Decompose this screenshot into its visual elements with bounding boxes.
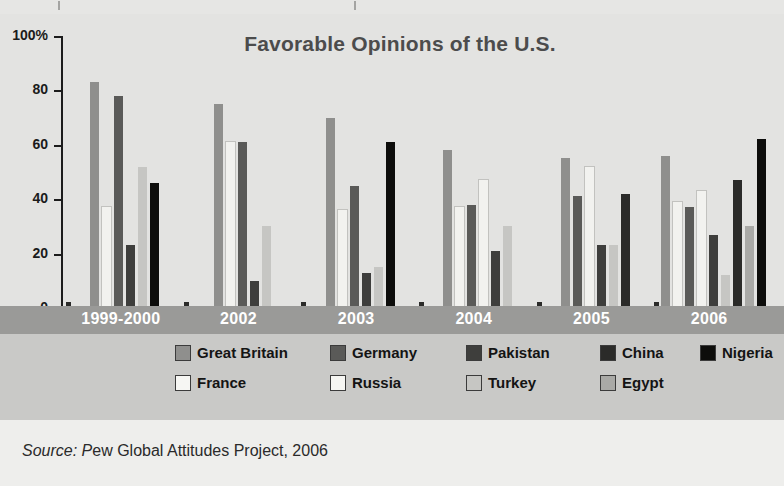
bar bbox=[126, 245, 135, 308]
legend-item-nigeria[interactable]: Nigeria bbox=[700, 344, 773, 361]
bar bbox=[661, 156, 670, 308]
bar bbox=[733, 180, 742, 308]
bar bbox=[374, 267, 383, 308]
bar bbox=[238, 142, 247, 308]
bar bbox=[386, 142, 395, 308]
legend-swatch-icon bbox=[600, 375, 616, 391]
x-axis-category-2004: 2004 bbox=[415, 310, 533, 328]
bar bbox=[362, 273, 371, 308]
legend-label: Nigeria bbox=[722, 344, 773, 361]
legend-swatch-icon bbox=[700, 345, 716, 361]
x-axis-category-2002: 2002 bbox=[180, 310, 298, 328]
bar bbox=[697, 191, 706, 308]
legend-item-pakistan[interactable]: Pakistan bbox=[466, 344, 550, 361]
bar bbox=[673, 202, 682, 308]
y-axis-label: 20 bbox=[2, 245, 48, 261]
legend-item-china[interactable]: China bbox=[600, 344, 664, 361]
bar bbox=[609, 245, 618, 308]
legend-item-turkey[interactable]: Turkey bbox=[466, 374, 536, 391]
chart-legend: Great BritainGermanyPakistanChinaNigeria… bbox=[0, 334, 784, 420]
bar bbox=[503, 226, 512, 308]
legend-label: China bbox=[622, 344, 664, 361]
legend-item-germany[interactable]: Germany bbox=[330, 344, 417, 361]
bar bbox=[114, 96, 123, 308]
legend-label: France bbox=[197, 374, 246, 391]
x-axis-category-2003: 2003 bbox=[297, 310, 415, 328]
y-axis-tick bbox=[54, 254, 62, 256]
chart-page: Favorable Opinions of the U.S. 100%80604… bbox=[0, 0, 784, 486]
legend-label: Russia bbox=[352, 374, 401, 391]
bar bbox=[90, 82, 99, 308]
legend-swatch-icon bbox=[175, 375, 191, 391]
source-rest: ew Global Attitudes Project, 2006 bbox=[92, 442, 328, 459]
bar bbox=[443, 150, 452, 308]
bar bbox=[467, 205, 476, 308]
y-axis-tick bbox=[54, 199, 62, 201]
x-axis-category-2005: 2005 bbox=[533, 310, 651, 328]
bar bbox=[226, 142, 235, 308]
x-axis-category-band: 1999-200020022003200420052006 bbox=[0, 306, 784, 334]
y-axis-tick bbox=[54, 145, 62, 147]
y-axis-label: 60 bbox=[2, 136, 48, 152]
bar bbox=[214, 104, 223, 308]
y-axis-label: 40 bbox=[2, 190, 48, 206]
legend-swatch-icon bbox=[466, 375, 482, 391]
y-axis-tick bbox=[54, 36, 62, 38]
bar bbox=[621, 194, 630, 308]
legend-swatch-icon bbox=[330, 345, 346, 361]
source-region: Source: Pew Global Attitudes Project, 20… bbox=[0, 420, 784, 486]
bar bbox=[350, 186, 359, 308]
bar bbox=[561, 158, 570, 308]
legend-label: Great Britain bbox=[197, 344, 288, 361]
legend-item-france[interactable]: France bbox=[175, 374, 246, 391]
scan-artifact-strip bbox=[0, 0, 784, 14]
legend-row-secondary: FranceRussiaTurkeyEgypt bbox=[0, 374, 784, 398]
legend-label: Egypt bbox=[622, 374, 664, 391]
bar bbox=[102, 207, 111, 308]
bar bbox=[479, 180, 488, 308]
chart-plot-region: Favorable Opinions of the U.S. 100%80604… bbox=[0, 14, 784, 314]
bar bbox=[709, 235, 718, 308]
legend-item-egypt[interactable]: Egypt bbox=[600, 374, 664, 391]
bar bbox=[685, 207, 694, 308]
source-note: Source: Pew Global Attitudes Project, 20… bbox=[22, 442, 328, 460]
legend-label: Pakistan bbox=[488, 344, 550, 361]
legend-item-great-britain[interactable]: Great Britain bbox=[175, 344, 288, 361]
y-axis-tick bbox=[54, 90, 62, 92]
legend-swatch-icon bbox=[330, 375, 346, 391]
bar bbox=[262, 226, 271, 308]
bar bbox=[721, 275, 730, 308]
legend-swatch-icon bbox=[600, 345, 616, 361]
legend-swatch-icon bbox=[175, 345, 191, 361]
x-axis-category-2006: 2006 bbox=[650, 310, 768, 328]
bar bbox=[455, 207, 464, 308]
x-axis-category-1999-2000: 1999-2000 bbox=[62, 310, 180, 328]
bar bbox=[491, 251, 500, 308]
source-prefix: Source: P bbox=[22, 442, 92, 459]
legend-swatch-icon bbox=[466, 345, 482, 361]
bars-container bbox=[62, 36, 768, 308]
bar bbox=[338, 210, 347, 308]
bar bbox=[597, 245, 606, 308]
legend-label: Turkey bbox=[488, 374, 536, 391]
bar bbox=[250, 281, 259, 308]
bar bbox=[585, 167, 594, 308]
y-axis-label: 100% bbox=[2, 27, 48, 43]
y-axis-label: 80 bbox=[2, 81, 48, 97]
legend-item-russia[interactable]: Russia bbox=[330, 374, 401, 391]
bar bbox=[745, 226, 754, 308]
bar bbox=[573, 196, 582, 308]
bar bbox=[326, 118, 335, 308]
bar bbox=[150, 183, 159, 308]
bar bbox=[757, 139, 766, 308]
legend-row-primary: Great BritainGermanyPakistanChinaNigeria bbox=[0, 344, 784, 368]
bar bbox=[138, 167, 147, 308]
legend-label: Germany bbox=[352, 344, 417, 361]
